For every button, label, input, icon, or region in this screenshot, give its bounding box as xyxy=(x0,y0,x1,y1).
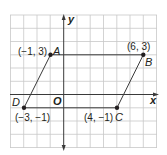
point-c-coords: (4, −1) xyxy=(84,112,113,123)
point-a-coords: (−1, 3) xyxy=(18,46,47,57)
origin-label: O xyxy=(53,95,62,107)
point-d-coords: (−3, −1) xyxy=(15,112,50,123)
point-c xyxy=(115,106,119,110)
point-c-label: C xyxy=(115,111,123,123)
grid xyxy=(10,15,157,148)
point-b-coords: (6, 3) xyxy=(127,41,150,52)
point-b-label: B xyxy=(145,56,152,68)
coordinate-plane: y x O (−1, 3) A (6, 3) B (4, −1) C (−3, … xyxy=(0,0,167,155)
point-d-label: D xyxy=(12,96,20,108)
point-a-label: A xyxy=(52,45,60,57)
axes xyxy=(10,14,159,151)
y-axis-label: y xyxy=(67,13,75,25)
x-axis-label: x xyxy=(149,94,157,106)
point-d xyxy=(22,106,26,110)
